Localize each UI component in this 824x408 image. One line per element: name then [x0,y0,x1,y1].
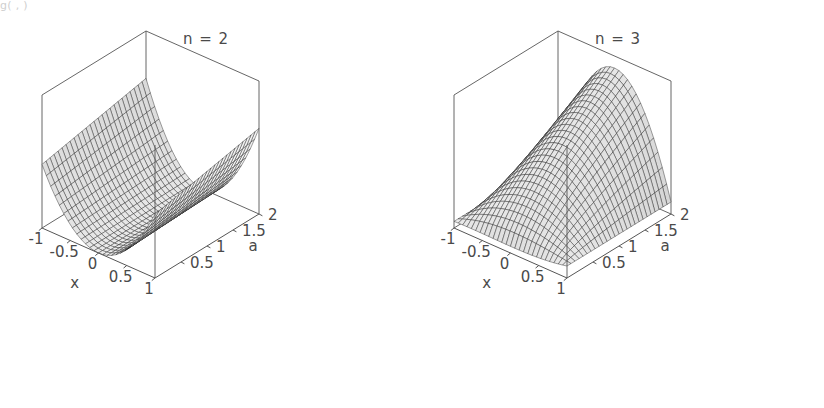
a-tick-label: 0.5 [602,254,626,272]
x-tick-label: 0 [500,255,510,273]
surface-plot-n3: -1-0.500.51x0.511.52a [412,0,824,408]
a-tick-label: 2 [268,206,278,224]
a-axis-name: a [248,237,257,255]
a-tick-label: 0.5 [190,254,214,272]
x-tick-label: -0.5 [50,243,79,261]
a-tick-label: 1 [628,238,638,256]
a-tick-label: 2 [680,206,690,224]
x-axis-name: x [482,274,491,292]
surface-plot-n2: -1-0.500.51x0.511.52a [0,0,412,408]
x-tick-label: -0.5 [462,243,491,261]
a-axis-name: a [660,237,669,255]
x-axis-name: x [70,274,79,292]
figure-root: g( , ) n = 2 -1-0.500.51x0.511.52a n = 3… [0,0,824,408]
x-tick-label: 0.5 [521,268,545,286]
x-tick-label: -1 [441,230,456,248]
surface-mesh [42,78,259,255]
a-tick-label: 1 [216,238,226,256]
x-tick-label: 0 [88,255,98,273]
x-tick-label: 1 [556,280,566,298]
plot-panel-n3: n = 3 -1-0.500.51x0.511.52a [412,0,824,408]
surface-mesh [454,67,671,266]
x-tick-label: -1 [29,230,44,248]
x-tick-label: 0.5 [109,268,133,286]
plot-panel-n2: n = 2 -1-0.500.51x0.511.52a [0,0,412,408]
x-tick-label: 1 [144,280,154,298]
